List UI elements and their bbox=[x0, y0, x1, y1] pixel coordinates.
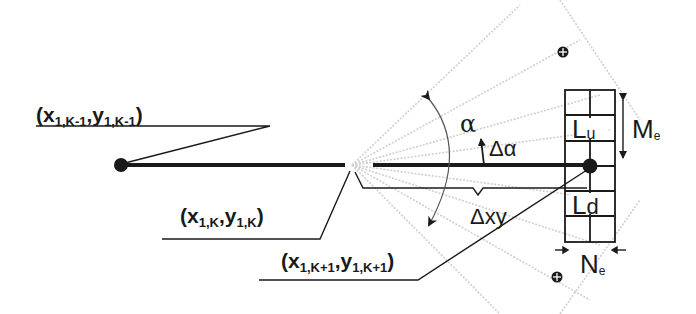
delta-alpha-arrow bbox=[481, 139, 484, 165]
label-lower-cell: Ld bbox=[572, 190, 599, 220]
label-previous-point: (x1,K-1,y1,K-1) bbox=[36, 103, 143, 129]
label-current-point: (x1,K,y1,K) bbox=[180, 204, 264, 230]
candidate-marker-lower bbox=[552, 272, 563, 283]
label-delta-xy: Δxy bbox=[470, 204, 507, 229]
label-alpha: α bbox=[460, 110, 476, 138]
label-delta-alpha: Δα bbox=[489, 136, 517, 161]
label-next-point: (x1,K+1,y1,K+1) bbox=[281, 249, 394, 275]
candidate-marker-upper bbox=[558, 47, 569, 58]
point-previous bbox=[114, 158, 128, 172]
label-window-height: Me bbox=[632, 114, 661, 144]
delta-xy-bracket bbox=[355, 172, 587, 195]
diagram-canvas: (x1,K-1,y1,K-1) (x1,K,y1,K) (x1,K+1,y1,K… bbox=[0, 0, 696, 314]
leader-previous bbox=[36, 126, 270, 163]
